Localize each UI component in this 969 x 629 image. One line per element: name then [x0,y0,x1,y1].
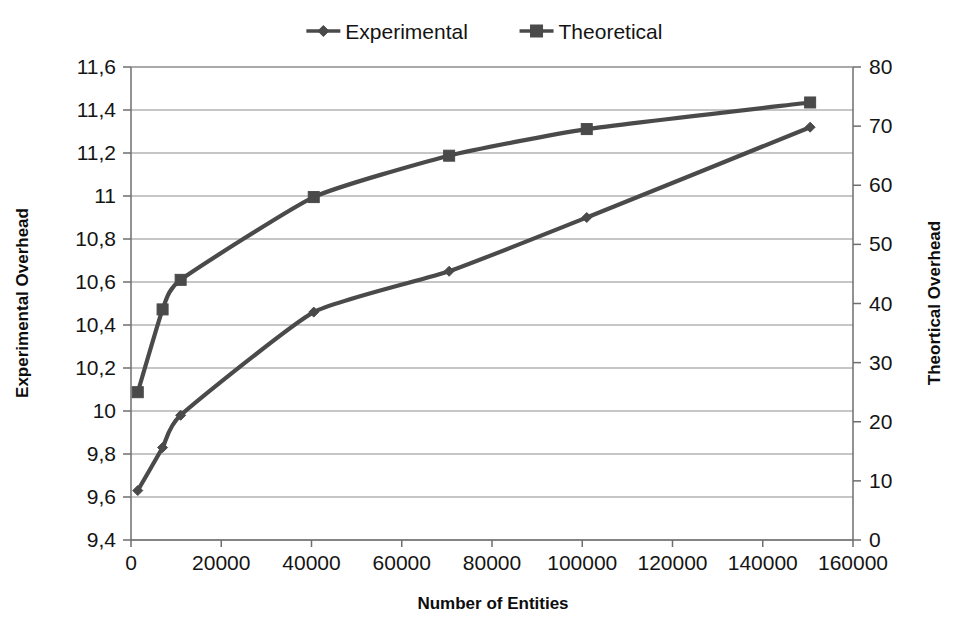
y-tick-label-left: 11,6 [77,55,116,78]
data-point-marker-square [581,124,592,135]
y-tick-label-left: 10,8 [75,227,116,250]
y-tick-label-left: 11 [94,184,116,207]
data-point-marker-square [531,25,543,37]
chart-container: ExperimentalTheoretical 0200004000060000… [0,0,969,629]
y-tick-label-left: 11,2 [77,141,116,164]
x-tick-label: 120000 [637,551,707,574]
x-tick-label: 20000 [192,551,250,574]
y-tick-label-right: 50 [869,232,892,255]
y-tick-label-right: 60 [869,173,892,196]
y-tick-label-right: 10 [869,469,892,492]
y-axis-left-title: Experimental Overhead [13,208,32,398]
y-tick-label-left: 9,8 [87,442,116,465]
y-tick-label-left: 9,6 [87,485,116,508]
x-tick-label: 0 [125,551,137,574]
y-tick-label-right: 80 [869,55,892,78]
x-tick-label: 100000 [547,551,617,574]
y-tick-label-left: 9,4 [87,528,117,551]
data-point-marker-square [444,150,455,161]
data-point-marker-square [157,304,168,315]
x-tick-label: 60000 [373,551,431,574]
y-tick-label-left: 10,6 [75,270,116,293]
overhead-line-chart: ExperimentalTheoretical 0200004000060000… [0,0,969,629]
chart-background [0,0,969,629]
y-tick-label-left: 10 [93,399,116,422]
data-point-marker-square [175,274,186,285]
x-tick-label: 40000 [282,551,340,574]
y-tick-label-left: 11,4 [77,98,117,121]
y-tick-label-left: 10,2 [75,356,116,379]
data-point-marker-square [308,192,319,203]
data-point-marker-square [805,97,816,108]
y-tick-label-right: 0 [869,528,881,551]
x-axis-title: Number of Entities [417,594,568,613]
y-tick-label-right: 70 [869,114,892,137]
x-tick-label: 160000 [818,551,888,574]
x-tick-label: 140000 [728,551,798,574]
y-tick-label-right: 20 [869,410,892,433]
y-axis-right-title: Theortical Overhead [925,221,944,385]
y-tick-label-right: 30 [869,351,892,374]
legend-label-experimental: Experimental [345,20,468,43]
x-tick-label: 80000 [463,551,521,574]
y-tick-label-right: 40 [869,292,892,315]
data-point-marker-square [132,387,143,398]
legend-label-theoretical: Theoretical [559,20,663,43]
y-tick-label-left: 10,4 [75,313,116,336]
